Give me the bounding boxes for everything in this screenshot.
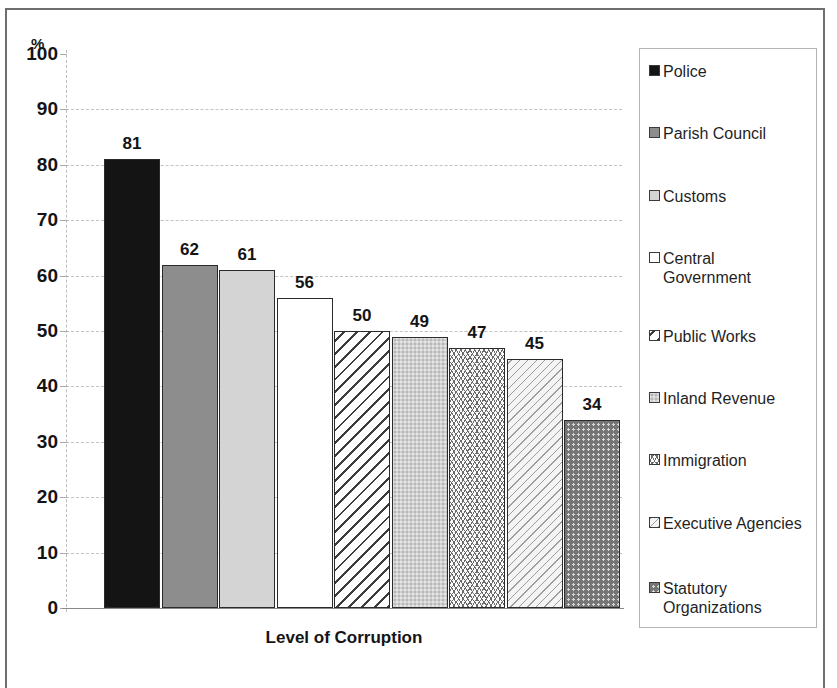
y-axis-tick-mark (60, 165, 67, 166)
y-axis-tick-mark (60, 442, 67, 443)
gridline (66, 109, 622, 110)
legend-item-label: Customs (663, 187, 726, 206)
y-axis-tick-label: 40 (8, 376, 58, 395)
bar-value-label: 34 (554, 396, 630, 413)
legend-swatch-icon (649, 392, 660, 403)
y-axis-tick-label: 100 (8, 44, 58, 63)
bar-value-label: 61 (209, 246, 285, 263)
y-axis-tick-mark (60, 220, 67, 221)
y-axis-tick-mark (60, 331, 67, 332)
legend-item[interactable]: Executive Agencies (649, 514, 815, 533)
y-axis-tick-label: 70 (8, 210, 58, 229)
legend-item[interactable]: Statutory Organizations (649, 579, 815, 617)
legend-item[interactable]: Police (649, 62, 815, 81)
legend-swatch-icon (649, 65, 660, 76)
legend-item[interactable]: Parish Council (649, 124, 815, 143)
bar (449, 348, 505, 608)
y-axis-tick-label: 90 (8, 99, 58, 118)
y-axis-tick-mark (60, 54, 67, 55)
y-axis-tick-label: 0 (8, 598, 58, 617)
legend-item-label: Executive Agencies (663, 514, 802, 533)
figure-frame: % 1009080706050403020100 816261565049474… (5, 8, 825, 688)
legend-item[interactable]: Customs (649, 187, 815, 206)
bar (392, 337, 448, 608)
y-axis-tick-mark (60, 497, 67, 498)
legend-item-label: Public Works (663, 327, 756, 346)
legend-item-label: Central Government (663, 249, 751, 287)
y-axis-tick-mark (60, 553, 67, 554)
bar (334, 331, 390, 608)
y-axis-tick-mark (60, 386, 67, 387)
x-axis-title: Level of Corruption (66, 628, 622, 648)
legend-swatch-icon (649, 252, 660, 263)
bar (162, 265, 218, 608)
legend-item-label: Parish Council (663, 124, 766, 143)
legend-item[interactable]: Immigration (649, 451, 815, 470)
y-axis-tick-label: 80 (8, 155, 58, 174)
legend-swatch-icon (649, 190, 660, 201)
legend-item[interactable]: Public Works (649, 327, 815, 346)
legend-item-label: Inland Revenue (663, 389, 775, 408)
bar (564, 420, 620, 608)
y-axis-tick-label: 50 (8, 321, 58, 340)
legend-item[interactable]: Inland Revenue (649, 389, 815, 408)
bar-value-label: 56 (267, 274, 343, 291)
x-axis-line (62, 608, 624, 609)
legend-swatch-icon (649, 582, 660, 593)
legend: PoliceParish CouncilCustomsCentral Gover… (639, 48, 817, 628)
bar (219, 270, 275, 608)
y-axis-tick-mark (60, 276, 67, 277)
legend-swatch-icon (649, 517, 660, 528)
legend-item-label: Police (663, 62, 707, 81)
bar (277, 298, 333, 608)
legend-item-label: Statutory Organizations (663, 579, 762, 617)
y-axis-tick-label: 60 (8, 266, 58, 285)
legend-swatch-icon (649, 127, 660, 138)
y-axis-tick-labels: 1009080706050403020100 (7, 10, 58, 675)
y-axis-tick-label: 30 (8, 432, 58, 451)
bar-value-label: 45 (497, 335, 573, 352)
bar-chart: % 1009080706050403020100 816261565049474… (7, 10, 639, 675)
legend-swatch-icon (649, 454, 660, 465)
bar (104, 159, 160, 608)
legend-swatch-icon (649, 330, 660, 341)
legend-item[interactable]: Central Government (649, 249, 815, 287)
y-axis-tick-label: 10 (8, 543, 58, 562)
legend-item-label: Immigration (663, 451, 747, 470)
bar-value-label: 81 (94, 135, 170, 152)
y-axis-tick-mark (60, 109, 67, 110)
y-axis-tick-label: 20 (8, 487, 58, 506)
